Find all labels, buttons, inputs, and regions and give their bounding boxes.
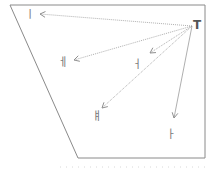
target-node-label: ㅏ — [166, 128, 176, 141]
target-node-label: ㅣ — [25, 8, 35, 21]
source-node-label: T — [193, 18, 202, 32]
edge-line-t3 — [150, 26, 192, 53]
arrowhead-icon — [74, 56, 80, 62]
edge-line-t1 — [40, 14, 192, 26]
target-node-label: ㅒ — [92, 110, 102, 123]
arrowhead-icon — [150, 48, 156, 53]
targets-group: ㅣㅔㅓㅒㅏ — [25, 8, 176, 141]
target-node-label: ㅔ — [58, 56, 68, 69]
diagram-canvas: T ㅣㅔㅓㅒㅏ — [0, 0, 213, 171]
edge-line-t2 — [74, 26, 192, 60]
target-node-label: ㅓ — [132, 58, 142, 71]
arrowhead-icon — [40, 12, 45, 18]
